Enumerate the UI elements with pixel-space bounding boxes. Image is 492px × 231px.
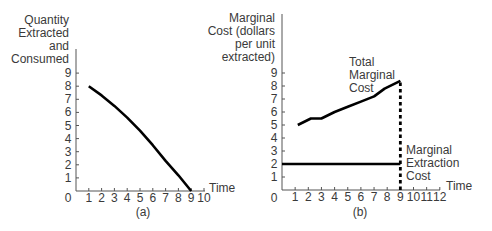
x-tick-label: 9 (397, 190, 404, 204)
y-tick-label: 6 (65, 105, 72, 119)
ylabel-line: Consumed (11, 52, 69, 66)
y-tick-label: 8 (65, 79, 72, 93)
svg-text:Extraction: Extraction (406, 156, 459, 170)
chart-a-axes (76, 49, 205, 191)
y-tick-label: 4 (65, 132, 72, 146)
chart-a-xlabel: Time (209, 181, 236, 195)
x-tick-label: 10 (407, 190, 421, 204)
y-tick-label: 7 (65, 92, 72, 106)
x-tick-label: 9 (188, 191, 195, 205)
x-tick-label: 5 (137, 191, 144, 205)
svg-text:Marginal: Marginal (349, 68, 395, 82)
y-tick-label: 1 (271, 170, 278, 184)
y-tick-label: 6 (271, 105, 278, 119)
ylabel-line: Marginal (229, 11, 275, 25)
chart-b-xlabel: Time (446, 179, 473, 193)
x-tick-label: 6 (149, 191, 156, 205)
x-tick-label: 2 (98, 191, 105, 205)
svg-text:Marginal: Marginal (406, 143, 452, 157)
x-tick-label: 4 (124, 191, 131, 205)
chart-b-caption: (b) (353, 205, 368, 219)
y-tick-label: 7 (271, 92, 278, 106)
ylabel-line: Extracted (18, 26, 69, 40)
x-tick-label: 11 (420, 190, 433, 204)
x-tick-label: 7 (371, 190, 378, 204)
chart-b-ylabel: Marginal Cost (dollars per unit extracte… (208, 11, 276, 64)
x-tick-label: 8 (384, 190, 391, 204)
quantity-curve (89, 86, 191, 191)
svg-text:Cost: Cost (349, 81, 374, 95)
ylabel-line: Quantity (24, 13, 69, 27)
svg-text:Total: Total (349, 55, 374, 69)
y-tick-label: 3 (271, 144, 278, 158)
y-tick-label: 9 (271, 66, 278, 80)
figure: Quantity Extracted and Consumed 12345678… (0, 0, 492, 231)
y-tick-label: 1 (65, 171, 72, 185)
chart-a-caption: (a) (136, 205, 151, 219)
ylabel-line: extracted) (222, 50, 275, 64)
x-tick-label: 4 (331, 190, 338, 204)
y-tick-label: 9 (65, 66, 72, 80)
y-tick-label: 8 (271, 79, 278, 93)
x-tick-label: 3 (318, 190, 325, 204)
y-tick-label: 4 (271, 131, 278, 145)
ylabel-line: per unit (235, 37, 276, 51)
x-tick-label: 7 (162, 191, 169, 205)
x-tick-label: 2 (305, 190, 312, 204)
y-tick-label: 5 (65, 119, 72, 133)
chart-b: Marginal Cost (dollars per unit extracte… (208, 11, 473, 219)
chart-a: Quantity Extracted and Consumed 12345678… (11, 13, 236, 219)
svg-text:Cost: Cost (406, 169, 431, 183)
x-tick-label: 6 (358, 190, 365, 204)
x-tick-label: 3 (111, 191, 118, 205)
x-tick-label: 8 (175, 191, 182, 205)
chart-a-ylabel: Quantity Extracted and Consumed (11, 13, 69, 66)
y-tick-label: 3 (65, 145, 72, 159)
y-tick-label: 2 (65, 158, 72, 172)
chart-b-y-ticks: 123456789 (271, 66, 285, 184)
x-tick-label: 1 (292, 190, 299, 204)
y-tick-label: 2 (271, 157, 278, 171)
origin-label: 0 (65, 191, 72, 205)
x-tick-label: 5 (344, 190, 351, 204)
x-tick-label: 12 (433, 190, 447, 204)
marginal-extraction-cost-label: Marginal Extraction Cost (406, 143, 459, 183)
x-tick-label: 1 (85, 191, 92, 205)
chart-a-y-ticks: 123456789 (65, 66, 79, 185)
ylabel-line: Cost (dollars (208, 24, 275, 38)
y-tick-label: 5 (271, 118, 278, 132)
ylabel-line: and (49, 39, 69, 53)
origin-label: 0 (271, 191, 278, 205)
total-marginal-cost-label: Total Marginal Cost (349, 55, 395, 95)
